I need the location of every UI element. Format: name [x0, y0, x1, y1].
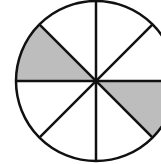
fraction-circle-diagram: [0, 0, 161, 164]
shaded-sector-upper-left: [16, 24, 96, 81]
